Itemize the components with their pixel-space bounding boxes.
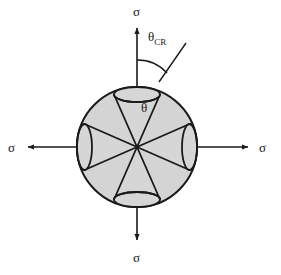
cone-apex-point xyxy=(135,145,139,149)
theta-cr-arc xyxy=(137,60,167,73)
theta-label: θ xyxy=(141,101,147,114)
stress-label-top: σ xyxy=(133,5,140,18)
theta-cr-ray xyxy=(159,43,186,82)
theta-cr-label: θCR xyxy=(148,30,166,47)
cone-crack-diagram xyxy=(0,0,281,275)
theta-cr-subscript: CR xyxy=(154,37,166,47)
stress-label-bottom: σ xyxy=(133,251,140,264)
stress-label-left: σ xyxy=(8,141,15,154)
stress-label-right: σ xyxy=(259,141,266,154)
theta-cr-annotation xyxy=(137,43,186,82)
